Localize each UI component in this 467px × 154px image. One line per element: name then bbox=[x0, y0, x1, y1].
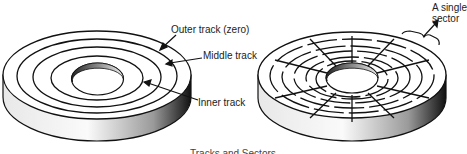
spindle-hole bbox=[72, 63, 124, 95]
sectors-disk bbox=[258, 20, 446, 141]
tracks-and-sectors-figure: Outer track (zero) Middle track Inner tr… bbox=[0, 0, 467, 154]
sector-label-line2: sector bbox=[432, 13, 459, 24]
outer-track-label: Outer track (zero) bbox=[171, 24, 249, 35]
tracks-disk bbox=[3, 31, 202, 141]
spindle-hole bbox=[326, 63, 378, 93]
sector-label-line1: A single bbox=[432, 2, 467, 13]
inner-track-label: Inner track bbox=[198, 97, 245, 108]
middle-track-label: Middle track bbox=[203, 50, 257, 61]
figure-caption: Tracks and Sectors bbox=[190, 148, 276, 154]
